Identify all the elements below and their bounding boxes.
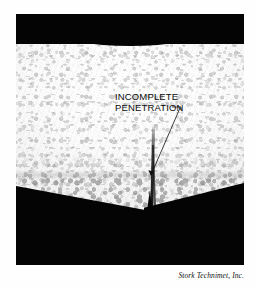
page-canvas: INCOMPLETE PENETRATION Stork Technimet, … [0, 0, 256, 289]
annotation-line-1: INCOMPLETE [115, 92, 184, 103]
incomplete-penetration-label: INCOMPLETE PENETRATION [115, 92, 184, 113]
weld-micrograph-image [16, 14, 244, 265]
fusion-line-shading [16, 170, 244, 180]
source-credit: Stork Technimet, Inc. [178, 271, 244, 280]
annotation-line-2: PENETRATION [115, 103, 184, 114]
